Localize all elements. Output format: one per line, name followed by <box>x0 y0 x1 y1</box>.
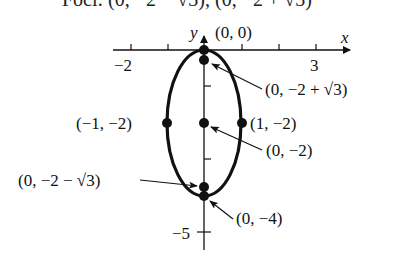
arrow-focus-lower <box>140 180 197 186</box>
foci-caption: Foci: (0, −2 − √3), (0, −2 + √3) <box>62 0 312 11</box>
point-vertex-bottom <box>199 191 209 201</box>
point-covertex-left <box>162 118 172 128</box>
x-axis-label: x <box>340 28 349 47</box>
label-focus-upper: (0, −2 + √3) <box>265 80 347 99</box>
x-tick-label-3: 3 <box>310 56 319 75</box>
label-covertex-right: (1, −2) <box>250 114 296 133</box>
arrow-vertex-bottom <box>210 201 233 219</box>
point-vertex-top <box>199 45 209 55</box>
point-labels: (0, 0) (0, −2 + √3) (−1, −2) (1, −2) (0,… <box>18 23 347 228</box>
label-vertex-bottom: (0, −4) <box>236 209 282 228</box>
point-center <box>199 118 209 128</box>
y-axis-label: y <box>188 23 198 42</box>
graph-canvas: −2 3 x y −5 <box>0 0 400 264</box>
y-tick-label-neg5: −5 <box>172 224 190 243</box>
label-origin: (0, 0) <box>215 23 252 42</box>
x-tick-label-neg2: −2 <box>114 56 132 75</box>
point-covertex-right <box>237 118 247 128</box>
ellipse-figure: Foci: (0, −2 − √3), (0, −2 + √3) −2 3 x <box>0 0 400 264</box>
label-focus-lower: (0, −2 − √3) <box>18 171 100 190</box>
point-focus-lower <box>199 182 209 192</box>
label-covertex-left: (−1, −2) <box>76 114 132 133</box>
point-focus-upper <box>199 55 209 65</box>
label-center: (0, −2) <box>266 141 312 160</box>
